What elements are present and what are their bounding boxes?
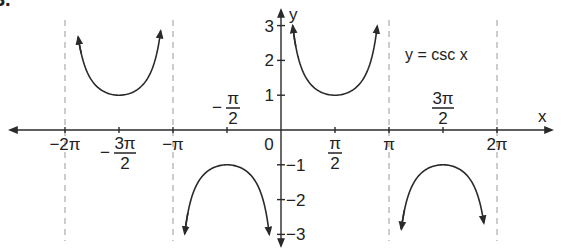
svg-text:π: π (227, 89, 239, 108)
svg-text:−: − (212, 98, 222, 117)
svg-text:3π: 3π (114, 134, 135, 153)
x-tick-label: 3π2 (432, 89, 454, 128)
svg-text:2: 2 (120, 154, 129, 173)
svg-text:2: 2 (438, 109, 447, 128)
x-tick-label: 3π2− (100, 134, 136, 173)
x-tick-label: −2π (49, 135, 80, 154)
svg-text:2π: 2π (486, 135, 507, 154)
x-axis-label: x (538, 107, 547, 126)
x-tick-label: π2− (212, 89, 240, 128)
csc-branch (185, 165, 270, 235)
x-tick-label: π2 (328, 134, 342, 173)
x-tick-label: 2π (486, 135, 507, 154)
equation-label: y = csc x (405, 46, 468, 63)
x-tick-label: −π (162, 135, 184, 154)
x-tick-label: 0 (264, 135, 273, 154)
x-tick-label: π (383, 135, 395, 154)
y-tick-label: −2 (286, 191, 305, 210)
csc-branch (293, 26, 378, 96)
svg-text:3π: 3π (432, 89, 453, 108)
x-ticks: −2π3π2−−ππ2−0π2π3π22π (49, 89, 507, 173)
problem-number: 3. (0, 0, 11, 10)
svg-text:π: π (383, 135, 395, 154)
y-tick-label: −1 (286, 156, 305, 175)
csc-graph: 3. x y −2π3π2−−ππ2−0π2π3π22π 321−1−2−3 y… (0, 0, 561, 249)
y-axis-label: y (289, 5, 298, 24)
csc-branch (401, 165, 484, 229)
svg-text:0: 0 (264, 135, 273, 154)
svg-text:π: π (329, 134, 341, 153)
svg-text:2: 2 (330, 154, 339, 173)
y-tick-label: −3 (286, 225, 305, 244)
svg-text:−2π: −2π (49, 135, 80, 154)
csc-branch (78, 31, 161, 95)
y-tick-label: 1 (265, 86, 274, 105)
y-tick-label: 3 (265, 17, 274, 36)
svg-text:−π: −π (162, 135, 184, 154)
svg-text:2: 2 (228, 109, 237, 128)
svg-text:−: − (100, 143, 110, 162)
y-tick-label: 2 (265, 51, 274, 70)
